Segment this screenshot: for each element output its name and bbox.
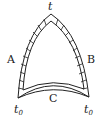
bottom-right-label: t0 bbox=[84, 103, 93, 117]
label-c: C bbox=[49, 92, 57, 105]
bottom-left-label: t0 bbox=[14, 103, 23, 117]
apex-label: t bbox=[48, 0, 53, 13]
curved-triangle-diagram: t A B C t0 t0 bbox=[0, 0, 101, 120]
label-a: A bbox=[6, 53, 16, 66]
label-b: B bbox=[87, 53, 95, 66]
